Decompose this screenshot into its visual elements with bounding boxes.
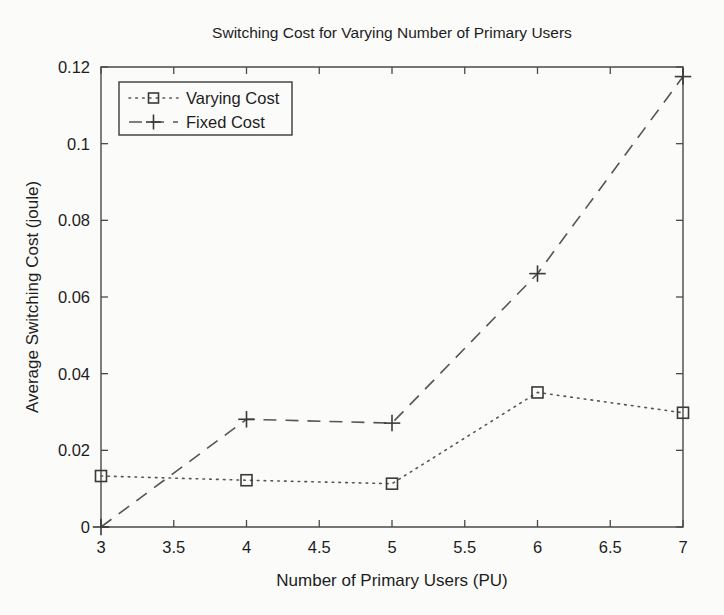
axes: [101, 67, 683, 527]
legend-label-fixed-cost[interactable]: Fixed Cost: [186, 113, 265, 131]
data-point-plus: [238, 411, 255, 428]
x-tick-label: 5: [387, 538, 396, 556]
legend-label-varying-cost[interactable]: Varying Cost: [186, 89, 280, 107]
x-tick-label: 3: [96, 538, 105, 556]
axis-ticks: [101, 67, 683, 527]
y-tick-label: 0.12: [58, 58, 90, 76]
x-tick-label: 4: [242, 538, 251, 556]
y-axis-label: Average Switching Cost (joule): [23, 181, 42, 413]
data-series: [93, 68, 692, 535]
series-varying-cost: [96, 387, 689, 489]
x-tick-label: 7: [678, 538, 687, 556]
plot-frame: [101, 67, 683, 527]
data-point-plus: [529, 265, 546, 282]
x-tick-label: 4.5: [308, 538, 331, 556]
y-tick-label: 0.1: [67, 135, 90, 153]
y-tick-label: 0.06: [58, 288, 90, 306]
series-fixed-cost: [93, 68, 692, 535]
chart-title: Switching Cost for Varying Number of Pri…: [212, 24, 572, 41]
data-point-plus: [675, 68, 692, 85]
x-axis-label: Number of Primary Users (PU): [276, 571, 507, 590]
series-line: [101, 392, 683, 483]
y-tick-label: 0: [81, 518, 90, 536]
y-tick-label: 0.08: [58, 211, 90, 229]
x-tick-label: 3.5: [162, 538, 185, 556]
y-tick-label: 0.02: [58, 441, 90, 459]
series-line: [101, 77, 683, 527]
x-tick-label: 6: [533, 538, 542, 556]
x-tick-label: 6.5: [599, 538, 622, 556]
y-tick-label: 0.04: [58, 365, 90, 383]
x-tick-label: 5.5: [453, 538, 476, 556]
chart-figure: 33.544.555.566.5700.020.040.060.080.10.1…: [0, 0, 724, 615]
data-point-plus: [93, 519, 110, 536]
line-chart: 33.544.555.566.5700.020.040.060.080.10.1…: [0, 0, 724, 615]
chart-legend[interactable]: Varying CostFixed Cost: [119, 82, 292, 135]
